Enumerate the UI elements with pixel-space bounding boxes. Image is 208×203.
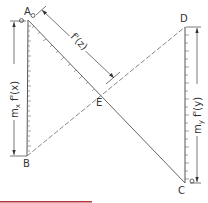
- origin-mark-a: [20, 19, 24, 23]
- label-a: A: [24, 6, 31, 17]
- scale-dc-ticks: [185, 35, 189, 179]
- origin-mark-c: [190, 179, 194, 183]
- label-d: D: [180, 13, 188, 24]
- arrow-up-icon: [195, 28, 198, 33]
- label-e: E: [96, 97, 102, 108]
- scale-ab-ticks: [28, 26, 31, 151]
- scale-ac-ticks: [32, 26, 94, 91]
- arrow-down-icon: [195, 177, 198, 182]
- arrow-down-icon: [12, 150, 15, 155]
- accent-bar: [0, 201, 92, 203]
- label-b: B: [23, 158, 30, 169]
- scale-ab: [27, 20, 28, 156]
- scale-ac: [28, 20, 185, 183]
- dim-diag-ext-bottom: [106, 72, 120, 84]
- arrow-up-icon: [12, 22, 15, 27]
- origin-mark-a2: [31, 14, 35, 18]
- nomogram-diagram: A B C D E mx f'(x) my f'(y) f'(z): [0, 0, 208, 203]
- label-c: C: [178, 185, 185, 196]
